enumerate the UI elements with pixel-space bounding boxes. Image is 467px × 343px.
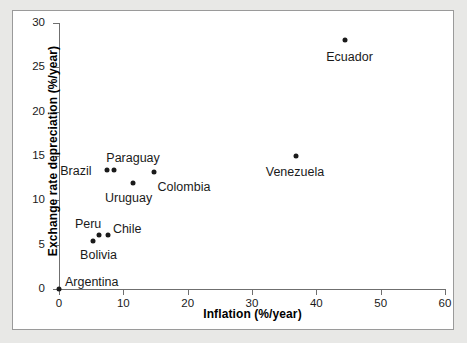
x-tick-mark (188, 289, 189, 295)
data-point-label: Uruguay (105, 192, 152, 205)
data-point (112, 168, 117, 173)
figure-card: 051015202530 0102030405060 ArgentinaBoli… (12, 10, 454, 330)
data-point (293, 154, 298, 159)
data-point-label: Paraguay (106, 152, 160, 165)
data-point (96, 232, 101, 237)
data-point-label: Peru (75, 218, 101, 231)
x-tick-mark (316, 289, 317, 295)
data-point (91, 239, 96, 244)
y-tick-label: 25 (13, 61, 45, 73)
y-tick-label: 20 (13, 106, 45, 118)
data-point (105, 232, 110, 237)
y-tick-label: 15 (13, 150, 45, 162)
data-point (57, 287, 62, 292)
x-tick-mark (123, 289, 124, 295)
data-point (130, 180, 135, 185)
data-point-label: Bolivia (80, 249, 117, 262)
x-axis-title: Inflation (%/year) (59, 307, 446, 321)
data-point-label: Colombia (158, 181, 211, 194)
data-point-label: Chile (113, 223, 142, 236)
y-tick-label: 10 (13, 194, 45, 206)
y-tick-label: 0 (13, 283, 45, 295)
y-tick-label: 30 (13, 17, 45, 29)
x-tick-mark (445, 289, 446, 295)
data-point (343, 37, 348, 42)
data-point-label: Ecuador (326, 51, 373, 64)
x-tick-mark (381, 289, 382, 295)
data-point (151, 169, 156, 174)
data-point-label: Venezuela (266, 166, 324, 179)
x-tick-mark (252, 289, 253, 295)
data-point-label: Brazil (60, 165, 91, 178)
y-axis-title: Exchange rate depreciation (%/year) (46, 16, 60, 286)
data-point (105, 168, 110, 173)
y-tick-label: 5 (13, 239, 45, 251)
data-point-label: Argentina (65, 276, 119, 289)
